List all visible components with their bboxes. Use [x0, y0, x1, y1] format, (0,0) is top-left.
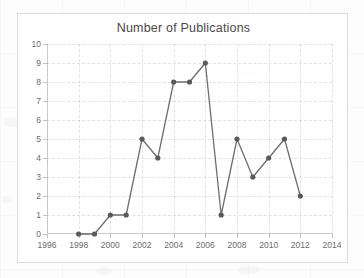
plot-area: 012345678910 199619982000200220042006200…	[47, 44, 332, 234]
y-tick-label: 5	[36, 134, 41, 144]
x-tick-mark	[237, 234, 238, 238]
data-point-marker	[234, 136, 239, 141]
x-tick-mark	[142, 234, 143, 238]
y-tick-label: 2	[36, 191, 41, 201]
x-tick-mark	[174, 234, 175, 238]
y-tick-label: 4	[36, 153, 41, 163]
y-tick-label: 1	[36, 210, 41, 220]
x-tick-label: 1998	[69, 240, 88, 250]
chart-figure: Number of Publications 012345678910 1996…	[17, 13, 348, 263]
data-point-marker	[76, 231, 81, 236]
y-tick-label: 7	[36, 96, 41, 106]
y-tick-label: 9	[36, 58, 41, 68]
x-tick-mark	[332, 234, 333, 238]
y-tick-label: 8	[36, 77, 41, 87]
data-series-line	[47, 44, 332, 234]
chart-title: Number of Publications	[18, 21, 349, 35]
x-tick-label: 2010	[259, 240, 278, 250]
x-tick-mark	[269, 234, 270, 238]
data-point-marker	[139, 136, 144, 141]
x-tick-label: 2000	[101, 240, 120, 250]
data-point-marker	[266, 155, 271, 160]
x-tick-label: 2006	[196, 240, 215, 250]
data-point-marker	[187, 79, 192, 84]
series-polyline	[79, 63, 301, 234]
data-point-marker	[219, 212, 224, 217]
x-tick-label: 2014	[323, 240, 342, 250]
x-tick-label: 2004	[164, 240, 183, 250]
data-point-marker	[203, 60, 208, 65]
gridline-vertical	[332, 44, 333, 234]
data-point-marker	[250, 174, 255, 179]
x-tick-mark	[300, 234, 301, 238]
data-point-marker	[298, 193, 303, 198]
y-tick-label: 3	[36, 172, 41, 182]
data-point-marker	[92, 231, 97, 236]
data-point-marker	[124, 212, 129, 217]
series-markers	[76, 60, 303, 236]
x-tick-label: 1996	[38, 240, 57, 250]
x-tick-label: 2008	[228, 240, 247, 250]
x-tick-mark	[47, 234, 48, 238]
y-tick-label: 10	[32, 39, 41, 49]
x-tick-label: 2012	[291, 240, 310, 250]
y-tick-label: 0	[36, 229, 41, 239]
x-tick-mark	[110, 234, 111, 238]
data-point-marker	[108, 212, 113, 217]
data-point-marker	[282, 136, 287, 141]
x-tick-label: 2002	[133, 240, 152, 250]
data-point-marker	[171, 79, 176, 84]
y-tick-label: 6	[36, 115, 41, 125]
data-point-marker	[155, 155, 160, 160]
x-tick-mark	[205, 234, 206, 238]
